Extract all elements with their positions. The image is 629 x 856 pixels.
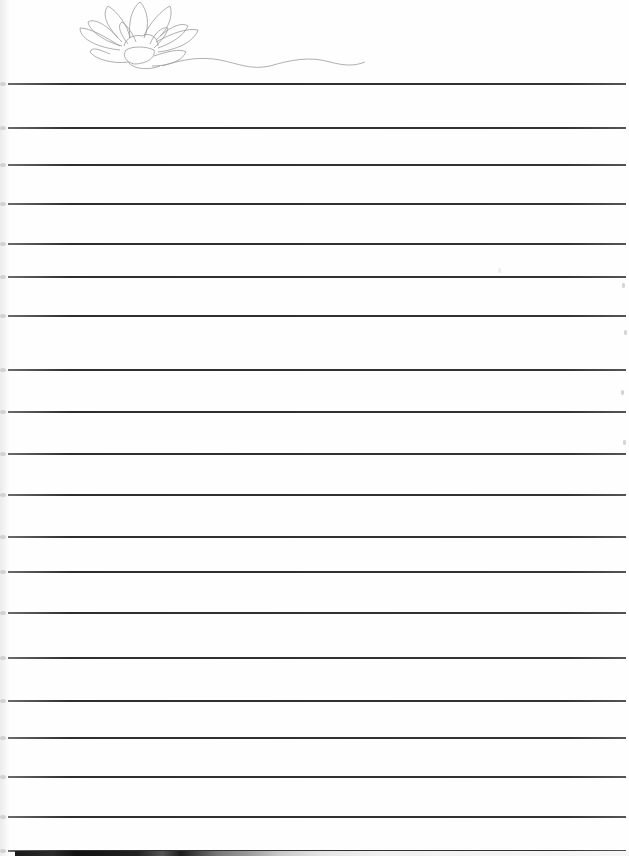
ruled-line xyxy=(8,776,626,778)
scan-speck xyxy=(622,283,625,288)
notepaper-page xyxy=(0,0,629,856)
ruled-line xyxy=(8,657,626,659)
ruled-line xyxy=(8,494,626,496)
ruled-line xyxy=(8,737,626,739)
ruled-line xyxy=(8,571,626,573)
scan-speck xyxy=(621,390,624,395)
scan-speck xyxy=(498,268,501,273)
lotus-flower-icon xyxy=(70,0,370,72)
ruled-line xyxy=(8,536,626,538)
ruled-line xyxy=(8,369,626,371)
ruled-line xyxy=(8,453,626,455)
ruled-line xyxy=(8,127,626,129)
scan-speck xyxy=(623,440,626,445)
ruled-line xyxy=(8,315,626,317)
ruled-line xyxy=(8,700,626,702)
ruled-line xyxy=(8,276,626,278)
ruled-line xyxy=(8,243,626,245)
scan-bottom-edge xyxy=(15,851,629,856)
ruled-line xyxy=(8,612,626,614)
ruled-line xyxy=(8,411,626,413)
ruled-line xyxy=(8,83,626,85)
ruled-line xyxy=(8,816,626,818)
ruled-line xyxy=(8,203,626,205)
ruled-line xyxy=(8,164,626,166)
scan-speck xyxy=(624,330,627,335)
